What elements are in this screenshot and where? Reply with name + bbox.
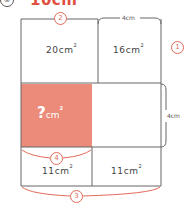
top-width-dimension: 4cm: [121, 14, 136, 21]
area-value: 16cm: [113, 45, 141, 55]
cell-top-right-area: 16cm2: [113, 42, 144, 55]
diagram-lines: [0, 0, 189, 210]
step-marker-1: 1: [171, 41, 184, 54]
area-exponent: 2: [141, 42, 145, 48]
cell-unknown-area: ?cm2: [37, 104, 63, 122]
area-unit: cm: [46, 110, 60, 120]
middle-height-dimension: 4cm: [166, 112, 181, 119]
cell-bottom-right-area: 11cm2: [111, 163, 142, 176]
cell-top-left-area: 20cm2: [46, 42, 77, 55]
area-exponent: 2: [139, 163, 143, 169]
cell-bottom-left-area: 11cm2: [42, 163, 73, 176]
step-marker-2: 2: [54, 12, 67, 25]
area-value: 11cm: [42, 166, 70, 176]
area-value: 20cm: [46, 45, 74, 55]
area-exponent: 2: [74, 42, 78, 48]
area-exponent: 2: [59, 105, 62, 111]
area-exponent: 2: [70, 163, 74, 169]
area-value: 11cm: [111, 166, 139, 176]
step-marker-4: 4: [50, 152, 63, 165]
unknown-mark: ?: [37, 104, 46, 122]
step-marker-3: 3: [70, 190, 83, 203]
